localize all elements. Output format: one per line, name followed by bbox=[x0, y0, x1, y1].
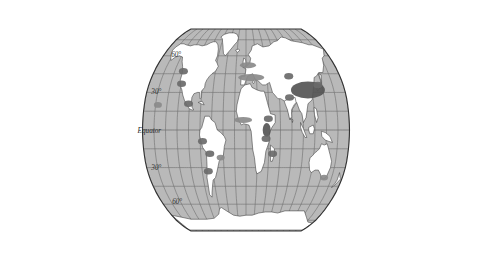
density-blob bbox=[285, 94, 294, 100]
density-blob bbox=[264, 115, 273, 121]
density-blob bbox=[262, 136, 271, 142]
lat-label-south-30: 30° bbox=[150, 164, 161, 172]
density-blob bbox=[268, 151, 277, 157]
density-blob bbox=[263, 123, 271, 137]
lat-label-equator: Equator bbox=[137, 127, 162, 135]
density-blob bbox=[154, 102, 162, 108]
world-map-figure: e 60°30°Equator30°60° bbox=[0, 0, 492, 256]
density-blob bbox=[205, 151, 214, 157]
robinson-map-svg: 60°30°Equator30°60° bbox=[0, 0, 492, 256]
density-blob bbox=[184, 100, 193, 106]
density-blob bbox=[320, 175, 328, 181]
density-blob bbox=[217, 155, 225, 161]
density-blob bbox=[240, 62, 256, 68]
lat-label-south-60: 60° bbox=[172, 198, 182, 206]
density-blob bbox=[177, 80, 186, 86]
density-blob bbox=[238, 74, 264, 81]
density-blob bbox=[179, 68, 188, 74]
density-blob bbox=[284, 73, 293, 79]
density-blob bbox=[234, 117, 252, 123]
lat-label-north-60: 60° bbox=[171, 51, 181, 59]
lat-label-north-30: 30° bbox=[150, 88, 161, 96]
density-blob bbox=[204, 168, 213, 174]
map-canvas: 60°30°Equator30°60° bbox=[0, 0, 492, 256]
density-blob bbox=[198, 138, 207, 144]
density-blob bbox=[313, 82, 322, 88]
